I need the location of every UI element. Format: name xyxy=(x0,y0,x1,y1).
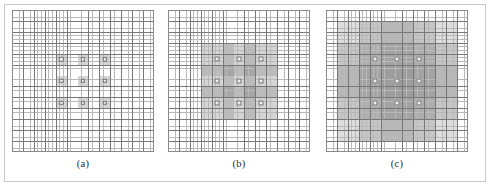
sample-point xyxy=(81,79,85,83)
panel-b: (b) xyxy=(168,10,314,180)
sample-point xyxy=(59,57,63,61)
sample-point xyxy=(103,79,107,83)
sample-point xyxy=(81,101,85,105)
sample-point xyxy=(373,79,378,84)
panel-c: (c) xyxy=(326,10,472,180)
sample-point xyxy=(416,79,421,84)
panel-a-grid xyxy=(12,10,154,152)
sample-point xyxy=(258,100,263,105)
sample-point xyxy=(237,57,242,62)
sample-point xyxy=(258,79,263,84)
sample-point xyxy=(395,57,400,62)
sample-point xyxy=(237,79,242,84)
panel-c-label: (c) xyxy=(326,158,468,169)
sample-point xyxy=(215,100,220,105)
sample-point xyxy=(103,57,107,61)
sample-point xyxy=(237,100,242,105)
panel-c-grid xyxy=(326,10,468,152)
figure-root: (a) (b) (c) xyxy=(0,0,490,186)
panel-b-label: (b) xyxy=(168,158,310,169)
sample-point xyxy=(416,57,421,62)
sample-point xyxy=(373,100,378,105)
panel-a: (a) xyxy=(12,10,158,180)
sample-point xyxy=(215,79,220,84)
sample-point xyxy=(81,57,85,61)
panel-b-grid xyxy=(168,10,310,152)
sample-point xyxy=(103,101,107,105)
sample-point xyxy=(258,57,263,62)
panel-a-label: (a) xyxy=(12,158,154,169)
sample-point xyxy=(395,79,400,84)
sample-point xyxy=(59,79,63,83)
sample-point xyxy=(416,100,421,105)
sample-point xyxy=(395,100,400,105)
sample-point xyxy=(373,57,378,62)
sample-point xyxy=(59,101,63,105)
sample-point xyxy=(215,57,220,62)
